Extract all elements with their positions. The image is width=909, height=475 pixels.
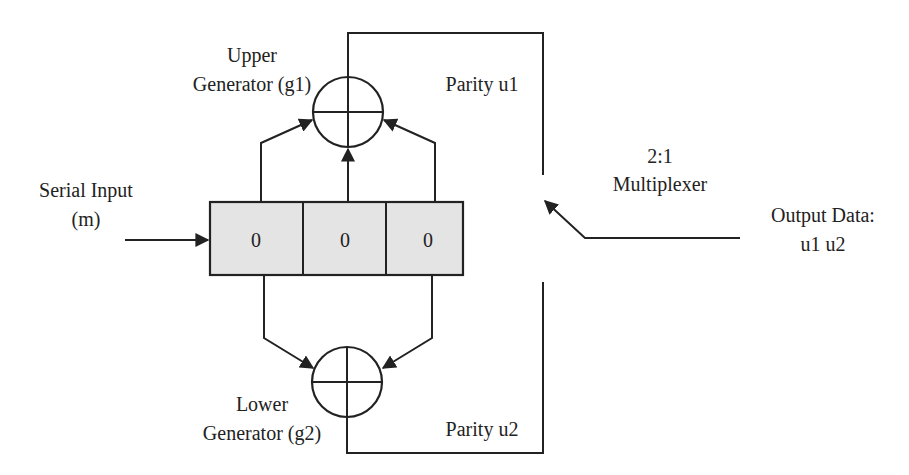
register-cell-2: 0 — [423, 229, 433, 251]
serial-input-label-line1: Serial Input — [39, 179, 133, 202]
parity-u2-label: Parity u2 — [446, 418, 519, 441]
parity-u1-label: Parity u1 — [446, 73, 519, 96]
tap-cell0-to-g1 — [261, 120, 312, 202]
register-cell-1: 0 — [340, 229, 350, 251]
upper-generator-label-line1: Upper — [227, 44, 277, 67]
register-cell-0: 0 — [251, 229, 261, 251]
lower-generator-label-line1: Lower — [236, 393, 289, 415]
shift-register: 0 0 0 — [210, 202, 463, 275]
mux-switch-arm — [545, 201, 740, 238]
output-label-line1: Output Data: — [771, 204, 875, 227]
lower-generator-label-line2: Generator (g2) — [203, 422, 321, 445]
tap-cell0-to-g2 — [264, 275, 313, 368]
tap-cell2-to-g1 — [384, 120, 435, 202]
lower-xor-icon — [312, 347, 382, 417]
upper-generator-label-line2: Generator (g1) — [193, 73, 311, 96]
upper-xor-icon — [313, 77, 383, 147]
serial-input-label-line2: (m) — [72, 208, 101, 231]
tap-cell2-to-g2 — [383, 275, 432, 368]
mux-label-line2: Multiplexer — [613, 173, 708, 196]
convolutional-encoder-diagram: Upper Generator (g1) Parity u1 Serial In… — [0, 0, 909, 475]
mux-label-line1: 2:1 — [647, 145, 673, 167]
output-label-line2: u1 u2 — [801, 233, 846, 255]
